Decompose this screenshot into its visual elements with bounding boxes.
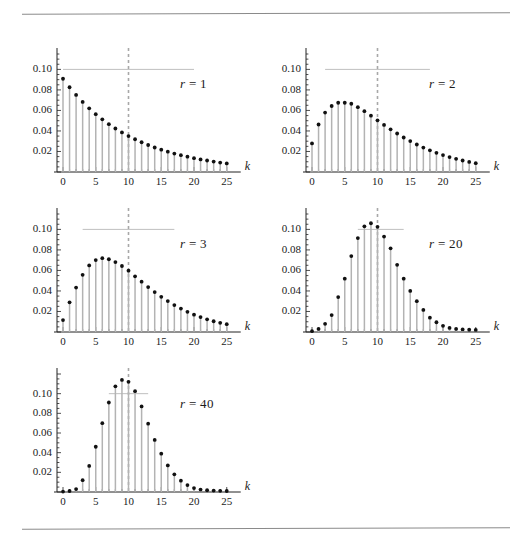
data-point [94, 258, 98, 262]
data-point [127, 269, 131, 273]
x-tick-label: 20 [431, 335, 455, 347]
y-tick-label: 0.06 [271, 263, 301, 275]
x-tick-label: 20 [182, 495, 206, 507]
data-point [218, 161, 222, 165]
r-value: 3 [200, 236, 207, 251]
x-axis-label-k: k [494, 159, 499, 174]
data-point [74, 286, 78, 290]
data-point [441, 153, 445, 157]
data-point [107, 122, 111, 126]
data-point [159, 148, 163, 152]
data-point [120, 378, 124, 382]
data-point [363, 109, 367, 113]
data-point [199, 315, 203, 319]
data-point [192, 313, 196, 317]
x-tick-label: 15 [149, 175, 173, 187]
data-point [94, 445, 98, 449]
r-symbol: r [180, 236, 185, 251]
data-point [415, 299, 419, 303]
data-point [212, 489, 216, 493]
plot-svg [22, 358, 262, 518]
data-point [114, 384, 118, 388]
data-point [68, 300, 72, 304]
data-point [192, 486, 196, 490]
r-value: 1 [200, 76, 207, 91]
x-tick-label: 10 [117, 495, 141, 507]
data-point [87, 106, 91, 110]
y-tick-label: 0.06 [22, 263, 52, 275]
data-point [153, 146, 157, 150]
data-point [172, 303, 176, 307]
x-tick-label: 5 [333, 335, 357, 347]
panel-r-2: 0.020.040.060.080.100510152025kr = 2 [271, 38, 511, 198]
x-tick-label: 0 [51, 495, 75, 507]
x-tick-label: 20 [182, 335, 206, 347]
data-point [343, 277, 347, 281]
data-point [94, 112, 98, 116]
data-point [205, 317, 209, 321]
panel-r-3: 0.020.040.060.080.100510152025kr = 3 [22, 198, 262, 358]
data-point [363, 224, 367, 228]
y-tick-label: 0.10 [271, 222, 301, 234]
data-point [415, 143, 419, 147]
data-point [356, 105, 360, 109]
data-point [153, 438, 157, 442]
data-point [421, 146, 425, 150]
data-point [166, 299, 170, 303]
x-tick-label: 5 [84, 175, 108, 187]
data-point [153, 290, 157, 294]
data-point [382, 235, 386, 239]
plot-svg [271, 38, 511, 198]
y-tick-label: 0.02 [22, 465, 52, 477]
data-point [179, 307, 183, 311]
x-tick-label: 15 [149, 495, 173, 507]
x-tick-label: 5 [84, 335, 108, 347]
data-point [133, 274, 137, 278]
data-point [114, 127, 118, 131]
x-tick-label: 0 [300, 335, 324, 347]
data-point [74, 93, 78, 97]
y-tick-label: 0.02 [271, 144, 301, 156]
y-tick-label: 0.10 [22, 222, 52, 234]
data-point [225, 161, 229, 165]
y-tick-label: 0.06 [22, 426, 52, 438]
x-tick-label: 15 [149, 335, 173, 347]
r-symbol: r [180, 76, 185, 91]
data-point [127, 380, 131, 384]
data-point [218, 321, 222, 325]
data-point [435, 151, 439, 155]
x-axis-label-k: k [245, 479, 250, 494]
data-point [212, 319, 216, 323]
data-point [474, 328, 478, 332]
data-point [100, 117, 104, 121]
data-point [166, 150, 170, 154]
x-tick-label: 15 [398, 175, 422, 187]
data-point [435, 320, 439, 324]
data-point [389, 127, 393, 131]
panel-r-40: 0.020.040.060.080.100510152025kr = 40 [22, 358, 262, 518]
data-point [81, 273, 85, 277]
data-point [395, 263, 399, 267]
panel-label-r: r = 40 [180, 396, 214, 412]
x-tick-label: 25 [215, 335, 239, 347]
data-point [199, 157, 203, 161]
y-tick-label: 0.08 [22, 406, 52, 418]
y-tick-label: 0.02 [271, 304, 301, 316]
y-tick-label: 0.04 [271, 284, 301, 296]
y-tick-label: 0.08 [22, 83, 52, 95]
bottom-horizontal-rule [22, 527, 510, 530]
data-point [179, 479, 183, 483]
x-tick-label: 5 [333, 175, 357, 187]
data-point [441, 324, 445, 328]
y-tick-label: 0.04 [271, 124, 301, 136]
data-point [474, 161, 478, 165]
data-point [159, 295, 163, 299]
data-point [100, 256, 104, 260]
plot-svg [271, 198, 511, 358]
y-tick-label: 0.06 [22, 103, 52, 115]
data-point [454, 327, 458, 331]
panel-label-r: r = 1 [180, 76, 207, 92]
x-tick-label: 10 [117, 335, 141, 347]
data-point [461, 328, 465, 332]
data-point [186, 483, 190, 487]
